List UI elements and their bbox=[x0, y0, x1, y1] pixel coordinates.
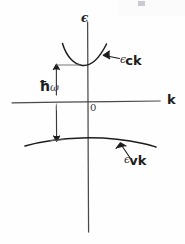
conduction-band-curve bbox=[63, 44, 107, 66]
scan-tint-artifact bbox=[118, 0, 185, 16]
valence-band-curve bbox=[25, 138, 156, 147]
energy-axis-line bbox=[88, 22, 89, 232]
omega-symbol: ω bbox=[50, 81, 59, 94]
band-diagram-svg bbox=[0, 0, 185, 244]
valence-band-label: ϵvk bbox=[124, 152, 147, 165]
momentum-axis-line bbox=[12, 101, 160, 103]
momentum-axis-label: k bbox=[167, 93, 176, 106]
photon-energy-label: ħω bbox=[39, 79, 59, 93]
conduction-band-label: ϵck bbox=[120, 52, 143, 65]
valence-subscript: vk bbox=[129, 153, 146, 168]
figure-canvas: ϵ k 0 ħω ϵck ϵvk bbox=[0, 0, 185, 244]
hbar-symbol: ħ bbox=[39, 78, 50, 94]
conduction-band-pointer-head bbox=[103, 51, 110, 59]
conduction-subscript: ck bbox=[125, 53, 141, 68]
scan-speck-artifact bbox=[138, 1, 145, 6]
origin-label: 0 bbox=[90, 103, 96, 113]
energy-axis-label: ϵ bbox=[81, 12, 88, 24]
valence-band-pointer-head bbox=[116, 143, 126, 149]
